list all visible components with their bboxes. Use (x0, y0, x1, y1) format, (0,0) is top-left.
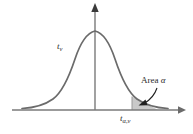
t-distribution-figure: tν Area α tα,ν (0, 0, 193, 134)
t-distribution-plot (0, 0, 193, 134)
critical-label-subscript: α,ν (123, 117, 131, 124)
density-curve-label: tν (57, 42, 62, 53)
area-annotation-symbol: α (161, 75, 166, 85)
density-label-subscript: ν (60, 45, 63, 52)
y-axis-arrowhead (91, 3, 98, 12)
area-annotation-label: Area α (141, 76, 165, 85)
area-annotation-text: Area (141, 75, 159, 85)
x-axis-arrowhead (178, 106, 186, 114)
critical-value-label: tα,ν (120, 114, 130, 125)
